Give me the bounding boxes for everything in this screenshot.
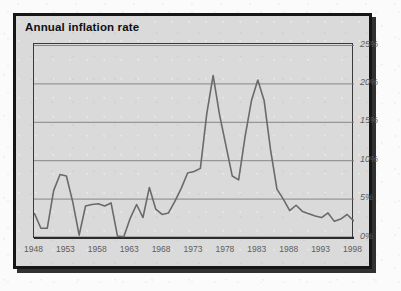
plot-svg <box>34 44 354 239</box>
screenshot-root: Annual inflation rate 0%5%10%15%20%25% 1… <box>0 0 401 291</box>
x-axis-tick-label: 1963 <box>120 244 139 254</box>
x-axis-tick-label: 1968 <box>152 244 171 254</box>
x-axis-tick-label: 1948 <box>24 244 43 254</box>
gridlines <box>34 46 354 200</box>
plot-panel <box>33 43 353 238</box>
chart-title: Annual inflation rate <box>25 21 139 33</box>
x-axis-tick-label: 1983 <box>247 244 266 254</box>
y-axis-tick-label: 10% <box>360 154 378 164</box>
y-axis-tick-label: 0% <box>360 231 373 241</box>
x-axis-tick-label: 1958 <box>88 244 107 254</box>
y-axis-tick-label: 5% <box>360 192 373 202</box>
x-axis-tick-label: 1993 <box>311 244 330 254</box>
chart-figure: Annual inflation rate 0%5%10%15%20%25% 1… <box>13 13 372 269</box>
x-axis-tick-label: 1988 <box>279 244 298 254</box>
y-axis-tick-label: 25% <box>360 39 378 49</box>
inflation-rate-line <box>35 75 354 236</box>
x-axis-tick-label: 1998 <box>343 244 362 254</box>
y-axis-tick-label: 20% <box>360 77 378 87</box>
x-axis-tick-label: 1978 <box>215 244 234 254</box>
y-axis-tick-label: 15% <box>360 115 378 125</box>
x-axis-tick-label: 1953 <box>56 244 75 254</box>
x-axis-tick-label: 1973 <box>184 244 203 254</box>
